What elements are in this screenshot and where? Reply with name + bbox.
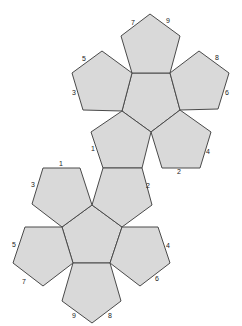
edge-label: 7 [131, 19, 135, 26]
face-upper-right [170, 51, 229, 110]
edge-label: 5 [82, 55, 86, 62]
edge-label: 6 [155, 275, 159, 282]
edge-label: 6 [225, 89, 229, 96]
edge-label: 9 [166, 17, 170, 24]
edge-label: 2 [146, 182, 150, 189]
edge-label: 8 [108, 312, 112, 319]
face-upper-left [72, 51, 132, 111]
edge-label: 2 [177, 168, 181, 175]
face-lower-bottom [62, 263, 121, 323]
edge-label: 8 [215, 54, 219, 61]
edge-label: 1 [59, 160, 63, 167]
face-upper-top [121, 14, 180, 73]
edge-label: 7 [22, 278, 26, 285]
edge-label: 4 [206, 148, 210, 155]
edge-label: 4 [166, 242, 170, 249]
edge-label: 1 [91, 145, 95, 152]
edge-label: 3 [72, 89, 76, 96]
dodecahedron-net-diagram: 7 9 5 3 8 6 1 4 2 1 3 2 5 7 4 6 9 8 [0, 0, 242, 326]
lower-net-group: 1 3 2 5 7 4 6 9 8 [12, 160, 170, 323]
face-lower-right [110, 227, 170, 286]
edge-label: 3 [31, 181, 35, 188]
edge-label: 9 [72, 312, 76, 319]
upper-net-group: 7 9 5 3 8 6 1 4 2 [72, 14, 229, 175]
edge-label: 5 [12, 241, 16, 248]
